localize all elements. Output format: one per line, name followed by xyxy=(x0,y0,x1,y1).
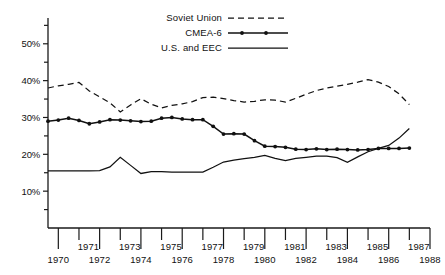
series-marker xyxy=(46,119,50,123)
x-axis-tick-label: 1988 xyxy=(419,254,441,265)
chart-series-group xyxy=(46,80,411,174)
series-marker xyxy=(129,119,133,123)
legend-label: CMEA-6 xyxy=(185,27,222,38)
x-axis-tick-label: 1975 xyxy=(160,241,182,252)
series-marker xyxy=(160,116,164,120)
y-axis-labels: 10%20%30%40%50% xyxy=(22,38,41,196)
series-marker xyxy=(273,145,277,149)
series-path-soviet-union xyxy=(48,80,409,112)
y-axis-ticks xyxy=(43,25,48,209)
x-axis-tick-label: 1974 xyxy=(130,254,152,265)
series-path-cmea-6 xyxy=(48,117,409,149)
series-marker xyxy=(232,132,236,136)
x-axis-tick-label: 1987 xyxy=(408,241,430,252)
x-axis-tick-label: 1971 xyxy=(78,241,100,252)
series-marker xyxy=(87,122,91,126)
series-marker xyxy=(387,147,391,151)
chart-container: Soviet UnionCMEA-6U.S. and EEC 10%20%30%… xyxy=(0,0,445,275)
series-marker xyxy=(180,117,184,121)
series-marker xyxy=(118,118,122,122)
series-marker xyxy=(201,118,205,122)
x-axis-tick-label: 1981 xyxy=(284,241,306,252)
series-marker xyxy=(98,120,102,124)
series-marker xyxy=(253,139,257,143)
series-marker xyxy=(242,132,246,136)
series-marker xyxy=(397,147,401,151)
legend-sample-marker xyxy=(264,31,268,35)
series-marker xyxy=(222,132,226,136)
legend-label: Soviet Union xyxy=(166,12,222,23)
x-axis-tick-label: 1985 xyxy=(367,241,389,252)
series-marker xyxy=(77,119,81,123)
series-marker xyxy=(294,147,298,151)
y-axis-tick-label: 50% xyxy=(22,38,41,49)
series-marker xyxy=(263,144,267,148)
series-marker xyxy=(356,148,360,152)
series-marker xyxy=(284,145,288,149)
x-axis-tick-label: 1973 xyxy=(119,241,141,252)
series-marker xyxy=(139,120,143,124)
x-axis-tick-label: 1986 xyxy=(378,254,400,265)
series-marker xyxy=(315,147,319,151)
x-axis-tick-label: 1984 xyxy=(337,254,359,265)
legend-label: U.S. and EEC xyxy=(161,42,222,53)
series-path-u-s-and-eec xyxy=(48,129,409,174)
y-axis-tick-label: 20% xyxy=(22,149,41,160)
x-axis-tick-label: 1970 xyxy=(48,254,70,265)
series-marker xyxy=(149,119,153,123)
x-axis-tick-label: 1982 xyxy=(295,254,317,265)
x-axis-tick-label: 1980 xyxy=(254,254,276,265)
series-marker xyxy=(407,146,411,150)
x-axis-tick-label: 1977 xyxy=(202,241,224,252)
series-marker xyxy=(170,116,174,120)
x-axis-tick-label: 1978 xyxy=(213,254,235,265)
chart-legend: Soviet UnionCMEA-6U.S. and EEC xyxy=(161,12,288,53)
series-marker xyxy=(211,124,215,128)
series-marker xyxy=(67,116,71,120)
x-axis-tick-label: 1983 xyxy=(325,241,347,252)
legend-sample-marker xyxy=(240,31,244,35)
line-chart: Soviet UnionCMEA-6U.S. and EEC 10%20%30%… xyxy=(0,0,445,275)
x-axis-tick-label: 1979 xyxy=(243,241,265,252)
series-marker xyxy=(56,118,60,122)
y-axis-tick-label: 30% xyxy=(22,112,41,123)
series-marker xyxy=(108,118,112,122)
series-marker xyxy=(325,148,329,152)
series-marker xyxy=(304,148,308,152)
series-marker xyxy=(335,147,339,151)
x-axis-labels: 1970197119721973197419751976197719781979… xyxy=(48,241,441,265)
series-marker xyxy=(191,118,195,122)
x-axis-tick-label: 1976 xyxy=(171,254,193,265)
y-axis-tick-label: 10% xyxy=(22,186,41,197)
series-marker xyxy=(346,148,350,152)
y-axis-tick-label: 40% xyxy=(22,75,41,86)
chart-axes xyxy=(48,18,430,228)
x-axis-tick-label: 1972 xyxy=(89,254,111,265)
